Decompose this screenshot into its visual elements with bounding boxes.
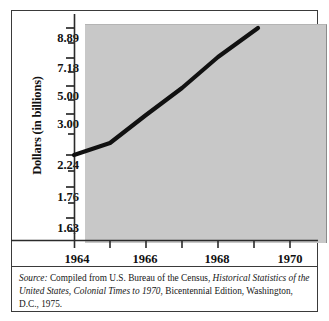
source-note: Source: Compiled from U.S. Bureau of the… bbox=[11, 266, 318, 312]
x-tick-label-1970: 1970 bbox=[260, 253, 320, 266]
y-tick-label-176: 1.76 bbox=[35, 191, 79, 204]
y-tick-label-300: 3.00 bbox=[35, 118, 79, 131]
x-tick-label-1966: 1966 bbox=[115, 253, 175, 266]
y-tick-label-163: 1.63 bbox=[35, 222, 79, 235]
figure-container: Dollars (in billions) 8.89 7.18 5.00 3.0… bbox=[0, 0, 329, 321]
x-tick-label-1964: 1964 bbox=[47, 253, 107, 266]
y-tick-label-889: 8.89 bbox=[35, 32, 79, 45]
source-line2-plain: , Bicentennial Edition, bbox=[161, 286, 245, 296]
source-line1-plain: Compiled from U.S. Bureau of the Census, bbox=[48, 273, 213, 283]
x-tick-label-1968: 1968 bbox=[187, 253, 247, 266]
y-tick-label-500: 5.00 bbox=[35, 90, 79, 103]
chart-region: Dollars (in billions) 8.89 7.18 5.00 3.0… bbox=[11, 10, 318, 266]
y-axis-tick-labels: 8.89 7.18 5.00 3.00 2.24 1.76 1.63 bbox=[29, 10, 79, 250]
y-tick-label-718: 7.18 bbox=[35, 62, 79, 75]
source-line1-italic: Historical Statistics bbox=[213, 273, 287, 283]
plot-area bbox=[85, 24, 327, 243]
y-tick-label-224: 2.24 bbox=[35, 159, 79, 172]
source-label: Source: bbox=[19, 273, 48, 283]
